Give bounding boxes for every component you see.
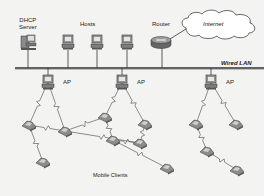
ap-3-label: AP xyxy=(226,79,234,86)
ap-1-label: AP xyxy=(63,79,71,86)
ap-3-access-point-icon xyxy=(205,75,217,90)
ap-2-access-point-icon xyxy=(116,75,128,90)
host-1-computer-icon xyxy=(62,35,74,50)
ap-2-label: AP xyxy=(137,79,145,86)
mc-6-laptop-icon xyxy=(133,139,147,150)
mc-2-laptop-icon xyxy=(58,127,72,138)
mobile-clients-label: Mobile Clients xyxy=(93,172,128,179)
wireless-link xyxy=(65,117,105,131)
router-internet-link xyxy=(170,29,186,39)
router-icon xyxy=(151,37,171,49)
mc-12-laptop-icon xyxy=(230,166,244,177)
host-3-computer-icon xyxy=(121,35,133,50)
wired-lan-label: Wired LAN xyxy=(221,60,252,67)
dhcp-server-icon xyxy=(21,35,36,50)
dhcp-label-line1: DHCP xyxy=(19,17,37,24)
router-label: Router xyxy=(152,21,170,28)
hosts-label: Hosts xyxy=(80,21,95,28)
wireless-links xyxy=(29,82,237,170)
mc-11-laptop-icon xyxy=(200,147,214,158)
network-diagram: DHCP Server Hosts Router Internet Wired … xyxy=(0,0,264,196)
diagram-canvas xyxy=(0,0,264,196)
internet-label: Internet xyxy=(203,21,223,28)
mc-3-laptop-icon xyxy=(98,113,112,124)
mc-5-laptop-icon xyxy=(138,120,152,131)
host-2-computer-icon xyxy=(91,35,103,50)
drop-lines xyxy=(28,48,211,77)
dhcp-label-line2: Server xyxy=(19,24,37,31)
mc-4-laptop-icon xyxy=(106,136,120,147)
mc-1-laptop-icon xyxy=(22,121,36,132)
ap-1-access-point-icon xyxy=(42,75,54,90)
mc-7-laptop-icon xyxy=(36,158,50,169)
mc-10-laptop-icon xyxy=(229,120,243,131)
dhcp-server-label: DHCP Server xyxy=(19,17,37,31)
mc-9-laptop-icon xyxy=(189,120,203,131)
